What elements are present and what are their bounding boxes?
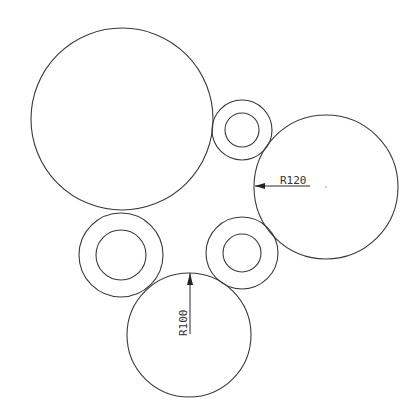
ring-right-lower: [206, 217, 278, 289]
ring-left-lower: [79, 213, 163, 297]
dimension-r100: R100: [177, 273, 193, 336]
ring-left-lower-inner: [96, 230, 146, 280]
arrowhead-icon: [255, 183, 265, 189]
arrowhead-icon: [187, 273, 193, 285]
cad-drawing-canvas: R120 R100: [0, 0, 416, 409]
ring-top-middle-inner: [225, 113, 259, 147]
dimension-label: R100: [177, 310, 190, 337]
ring-top-middle-outer: [212, 100, 272, 160]
large-circle-top-left: [31, 28, 213, 210]
ring-right-lower-outer: [206, 217, 278, 289]
center-mark: [325, 186, 327, 188]
ring-right-lower-inner: [223, 234, 261, 272]
ring-top-middle: [212, 100, 272, 160]
dimension-r120: R120: [255, 174, 310, 189]
ring-left-lower-outer: [79, 213, 163, 297]
dimension-label: R120: [280, 174, 307, 187]
